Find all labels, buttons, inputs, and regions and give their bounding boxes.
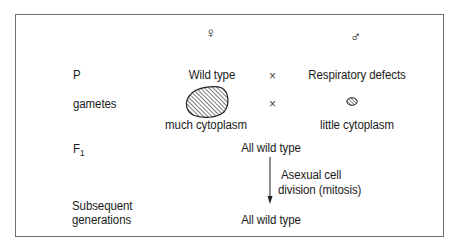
male-symbol: ♂ [350, 29, 361, 45]
process-label-line2: division (mitosis) [278, 183, 361, 197]
female-phenotype: Wild type [189, 68, 235, 82]
row-label-gametes: gametes [73, 97, 116, 111]
row-label-f1: F1 [73, 142, 84, 160]
subsequent-result: All wild type [241, 213, 301, 227]
row-label-subsequent-line1: Subsequent [72, 199, 132, 213]
male-phenotype: Respiratory defects [308, 68, 405, 82]
f1-result: All wild type [241, 141, 301, 155]
small-gamete-icon [346, 97, 358, 106]
male-gamete-label: little cytoplasm [320, 118, 394, 132]
cross-symbol-parents: × [269, 70, 276, 82]
down-arrow-icon [266, 157, 274, 205]
row-label-f1-main: F [73, 142, 80, 156]
large-gamete-icon [184, 85, 230, 119]
row-label-subsequent-line2: generations [72, 213, 131, 227]
female-symbol: ♀ [205, 25, 216, 41]
cross-symbol-gametes: × [269, 98, 276, 110]
process-label-line1: Asexual cell [281, 168, 341, 182]
row-label-p: P [73, 68, 81, 82]
row-label-f1-subscript: 1 [80, 148, 85, 158]
female-gamete-label: much cytoplasm [165, 118, 247, 132]
